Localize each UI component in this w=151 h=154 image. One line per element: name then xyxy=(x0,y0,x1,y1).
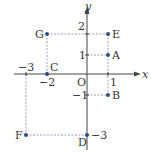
point-label-C: C xyxy=(50,61,58,74)
origin-label: O xyxy=(77,76,86,89)
coordinate-diagram: x y O 1 −2 −3 2 1 −1 −3 A B C D E F G xyxy=(0,0,151,154)
y-tick-2: 2 xyxy=(78,20,85,33)
point-A xyxy=(106,53,110,57)
point-E xyxy=(106,32,110,36)
point-B xyxy=(106,93,110,97)
point-label-G: G xyxy=(35,28,44,41)
y-tick-1: 1 xyxy=(79,49,86,62)
point-label-A: A xyxy=(111,49,121,62)
point-F xyxy=(24,133,28,137)
point-label-D: D xyxy=(78,136,87,149)
point-G xyxy=(45,32,49,36)
y-axis-label: y xyxy=(84,0,92,13)
point-label-B: B xyxy=(112,89,120,102)
y-tick-neg1: −1 xyxy=(72,89,88,102)
point-label-E: E xyxy=(112,28,120,41)
points xyxy=(24,32,110,137)
x-tick-neg3: −3 xyxy=(18,61,34,74)
point-label-F: F xyxy=(15,129,23,142)
x-axis-label: x xyxy=(142,68,149,81)
point-C xyxy=(45,72,49,76)
x-tick-neg2: −2 xyxy=(39,76,55,89)
x-axis-arrow-icon xyxy=(134,72,141,77)
x-tick-1: 1 xyxy=(110,76,117,89)
y-tick-neg3: −3 xyxy=(91,129,107,142)
